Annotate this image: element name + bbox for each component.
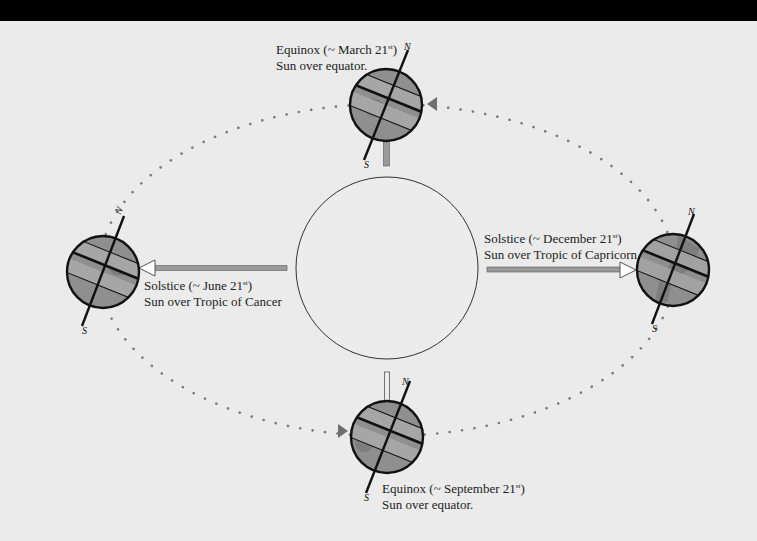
- earth-orbit-diagram: N S N S N S N S: [0, 0, 757, 541]
- label-september-subtitle: Sun over equator.: [382, 497, 525, 513]
- axis-south-september: S: [364, 492, 369, 503]
- label-march-subtitle: Sun over equator.: [276, 58, 397, 74]
- sun: [296, 177, 478, 359]
- sunlight-arrow-june-icon: [139, 260, 287, 276]
- axis-south-june: S: [82, 325, 87, 336]
- axis-north-december: N: [687, 206, 696, 217]
- label-june-title: Solstice (~ June 21st): [144, 278, 282, 294]
- label-december-title: Solstice (~ December 21st): [484, 231, 637, 247]
- orbit-direction-arrow-top-icon: [427, 97, 437, 111]
- axis-north-march: N: [403, 41, 412, 52]
- sunlight-arrow-december-icon: [487, 262, 636, 278]
- axis-north-june: N: [112, 204, 126, 217]
- earth-june: [55, 216, 153, 326]
- label-june-subtitle: Sun over Tropic of Cancer: [144, 294, 282, 310]
- label-march-title: Equinox (~ March 21st): [276, 42, 397, 58]
- label-september-equinox: Equinox (~ September 21st) Sun over equa…: [382, 481, 525, 513]
- label-december-subtitle: Sun over Tropic of Capricorn: [484, 247, 637, 263]
- label-september-title: Equinox (~ September 21st): [382, 481, 525, 497]
- axis-north-september: N: [401, 376, 410, 387]
- axis-south-march: S: [364, 159, 369, 170]
- axis-south-december: S: [652, 323, 657, 334]
- label-december-solstice: Solstice (~ December 21st) Sun over Trop…: [484, 231, 637, 263]
- label-june-solstice: Solstice (~ June 21st) Sun over Tropic o…: [144, 278, 282, 310]
- label-march-equinox: Equinox (~ March 21st) Sun over equator.: [276, 42, 397, 74]
- orbit-direction-arrow-bottom-icon: [338, 424, 348, 438]
